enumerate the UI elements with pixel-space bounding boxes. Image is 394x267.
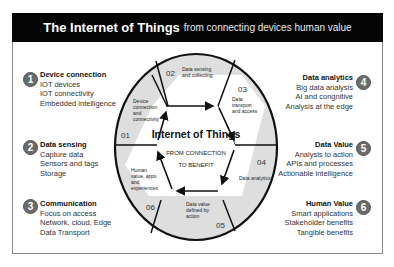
iot-cycle-diagram: Internet of Things FROM CONNECTION TO BE…: [0, 0, 394, 267]
segment-04-label: Data analytics: [239, 175, 271, 181]
segment-06-number: 06: [146, 203, 155, 212]
segment-02-label: Data sensing and collecting: [182, 66, 213, 78]
segment-04-number: 04: [257, 158, 266, 167]
center-sub-1: FROM CONNECTION: [166, 150, 226, 156]
segment-03-number: 03: [238, 85, 247, 94]
segment-01-number: 01: [121, 131, 130, 140]
segment-05-number: 05: [216, 221, 225, 230]
center-sub-2: TO BENEFIT: [178, 162, 214, 168]
center-title: Internet of Things: [152, 128, 241, 140]
segment-02-number: 02: [166, 69, 175, 78]
